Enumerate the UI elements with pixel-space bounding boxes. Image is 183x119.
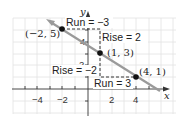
run-annotation: Run = 3 — [94, 77, 131, 89]
x-axis-label: x — [164, 90, 170, 101]
point-label: (4, 1) — [139, 66, 166, 77]
x-tick-label: −4 — [32, 94, 43, 105]
point-marker — [97, 50, 103, 56]
x-tick-label: −2 — [57, 94, 68, 105]
rise-annotation: Rise = 2 — [102, 31, 141, 43]
point-label: (1, 3) — [107, 47, 134, 58]
run-annotation: Run = −3 — [66, 16, 109, 28]
point-marker — [133, 74, 139, 80]
x-tick-label: 4 — [133, 94, 138, 105]
point-label: (−2, 5) — [25, 28, 60, 39]
x-tick-label: 2 — [109, 94, 114, 105]
rise-annotation: Rise = −2 — [52, 64, 97, 76]
coordinate-plane: −4 −2 2 4 4 2 x y (−2, 5) (1, 3) (4, 1) … — [0, 0, 183, 119]
